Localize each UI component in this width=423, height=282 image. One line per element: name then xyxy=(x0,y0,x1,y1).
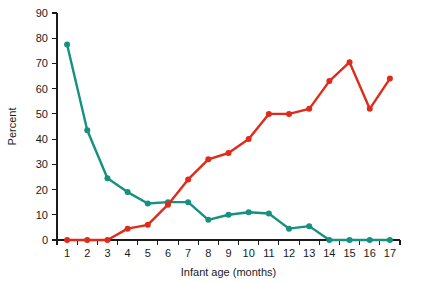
chart-figure: 0102030405060708090123456789101112131415… xyxy=(0,0,423,282)
data-point xyxy=(165,202,171,208)
x-tick-label: 5 xyxy=(145,247,151,259)
data-point xyxy=(246,209,252,215)
data-point xyxy=(306,106,312,112)
data-point xyxy=(145,222,151,228)
y-tick-label: 70 xyxy=(36,57,48,69)
x-tick-label: 1 xyxy=(64,247,70,259)
x-tick-label: 2 xyxy=(84,247,90,259)
x-tick-label: 11 xyxy=(263,247,274,259)
data-point xyxy=(286,111,292,117)
data-point xyxy=(185,199,191,205)
x-tick-label: 8 xyxy=(205,247,211,259)
data-point xyxy=(347,59,353,65)
x-tick-label: 13 xyxy=(303,247,315,259)
data-point xyxy=(347,237,353,243)
x-tick-label: 16 xyxy=(364,247,376,259)
y-axis-title: Percent xyxy=(6,108,18,146)
series-line xyxy=(67,45,390,240)
y-tick-label: 50 xyxy=(36,108,48,120)
y-tick-label: 10 xyxy=(36,209,48,221)
y-tick-label: 0 xyxy=(42,234,48,246)
x-axis-title: Infant age (months) xyxy=(181,266,276,278)
data-point xyxy=(125,189,131,195)
data-point xyxy=(226,150,232,156)
data-point xyxy=(125,226,131,232)
axis-frame xyxy=(57,13,400,240)
y-tick-label: 60 xyxy=(36,83,48,95)
data-point xyxy=(367,237,373,243)
data-point xyxy=(205,156,211,162)
data-point xyxy=(104,175,110,181)
data-point xyxy=(306,223,312,229)
data-point xyxy=(326,237,332,243)
x-tick-label: 7 xyxy=(185,247,191,259)
data-point xyxy=(84,127,90,133)
x-tick-label: 17 xyxy=(384,247,396,259)
x-tick-label: 6 xyxy=(165,247,171,259)
data-point xyxy=(145,200,151,206)
data-point xyxy=(226,212,232,218)
x-tick-label: 15 xyxy=(343,247,355,259)
data-point xyxy=(387,237,393,243)
x-tick-label: 14 xyxy=(323,247,335,259)
data-point xyxy=(246,136,252,142)
line-chart: 0102030405060708090123456789101112131415… xyxy=(0,0,423,282)
data-point xyxy=(64,237,70,243)
data-point xyxy=(185,176,191,182)
data-point xyxy=(64,42,70,48)
data-point xyxy=(266,111,272,117)
data-point xyxy=(84,237,90,243)
y-tick-label: 20 xyxy=(36,184,48,196)
y-tick-label: 90 xyxy=(36,7,48,19)
data-point xyxy=(266,211,272,217)
x-tick-label: 9 xyxy=(225,247,231,259)
x-tick-label: 12 xyxy=(283,247,295,259)
data-point xyxy=(387,76,393,82)
y-tick-label: 30 xyxy=(36,158,48,170)
data-point xyxy=(286,226,292,232)
x-tick-label: 10 xyxy=(243,247,255,259)
y-tick-label: 80 xyxy=(36,32,48,44)
y-tick-label: 40 xyxy=(36,133,48,145)
x-tick-label: 4 xyxy=(125,247,131,259)
x-tick-label: 3 xyxy=(104,247,110,259)
data-point xyxy=(104,237,110,243)
data-point xyxy=(367,106,373,112)
data-point xyxy=(326,78,332,84)
data-point xyxy=(205,217,211,223)
series-teal-series xyxy=(64,42,393,243)
